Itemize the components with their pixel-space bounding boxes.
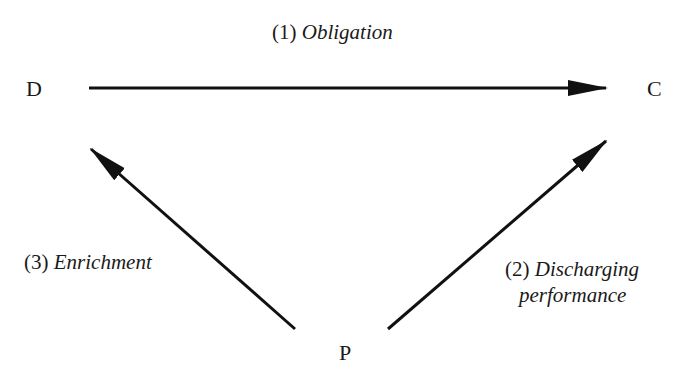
label-enrichment: (3) Enrichment xyxy=(24,252,152,273)
label-enrichment-text: Enrichment xyxy=(54,250,152,274)
label-obligation: (1) Obligation xyxy=(272,22,393,43)
label-obligation-number: (1) xyxy=(272,20,297,44)
label-enrichment-number: (3) xyxy=(24,250,49,274)
node-c: C xyxy=(647,78,662,100)
arrow-enrichment xyxy=(91,149,295,329)
label-obligation-text: Obligation xyxy=(302,20,393,44)
label-discharging-line2: performance xyxy=(519,285,626,306)
label-discharging-line1: (2) Discharging xyxy=(505,259,639,280)
node-d: D xyxy=(26,78,42,100)
diagram-canvas xyxy=(0,0,692,385)
label-discharging-number: (2) xyxy=(505,257,530,281)
node-p: P xyxy=(339,342,351,364)
label-discharging-text: Discharging xyxy=(535,257,639,281)
